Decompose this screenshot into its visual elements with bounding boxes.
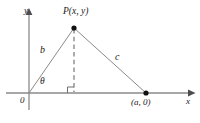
segment-b — [29, 28, 74, 93]
point-a-marker — [143, 90, 148, 95]
segment-c-label: c — [115, 52, 119, 62]
segment-b-label: b — [40, 45, 45, 55]
x-axis — [6, 90, 196, 97]
point-a-label: (a, 0) — [131, 98, 151, 107]
geometry-figure: y x 0 P(x, y) (a, 0) b c θ — [0, 0, 200, 123]
y-axis-label: y — [24, 6, 28, 15]
point-p-label: P(x, y) — [63, 7, 88, 17]
y-axis — [26, 8, 33, 110]
segment-c — [74, 28, 146, 93]
x-axis-label: x — [186, 97, 190, 106]
origin-label: 0 — [20, 96, 25, 105]
angle-theta-label: θ — [40, 77, 45, 87]
figure-canvas — [0, 0, 200, 123]
point-p-marker — [71, 25, 76, 30]
right-angle-marker-icon — [68, 87, 75, 93]
